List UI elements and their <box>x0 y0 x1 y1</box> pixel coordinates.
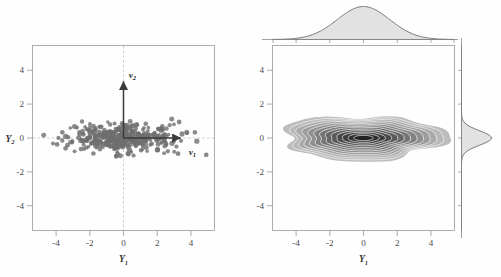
right-ytick-label-3: -2 <box>257 167 265 177</box>
left-y-ticks <box>27 70 33 205</box>
left-xtick-label-2: 0 <box>121 238 126 248</box>
right-panel-contour: 4 2 0 -2 -4 -4 -2 0 2 4 Y1 Y2 <box>240 0 501 277</box>
left-ytick-label-1: 2 <box>20 99 25 109</box>
eigenvector-v2-label: v2 <box>129 70 137 81</box>
left-xtick-label-0: -4 <box>52 238 60 248</box>
contour-bands <box>283 116 451 162</box>
right-marginal-ticks <box>458 70 462 205</box>
right-ytick-label-4: -4 <box>257 201 265 211</box>
left-ytick-label-4: -4 <box>17 201 25 211</box>
eigenvector-v1-label: v1 <box>189 147 196 158</box>
left-ytick-label-0: 4 <box>20 65 25 75</box>
left-xtick-label-1: -2 <box>86 238 94 248</box>
left-ytick-label-3: -2 <box>17 167 25 177</box>
right-xtick-label-3: 2 <box>395 238 400 248</box>
right-x-ticks <box>296 231 431 237</box>
left-yaxis-title: Y2 <box>5 134 15 146</box>
left-panel-svg: 4 2 0 -2 -4 -4 -2 0 2 4 <box>0 0 240 277</box>
left-panel-scatter: 4 2 0 -2 -4 -4 -2 0 2 4 <box>0 0 240 277</box>
right-marginal-density <box>458 38 492 238</box>
left-xtick-label-4: 4 <box>189 238 194 248</box>
left-xtick-label-3: 2 <box>155 238 160 248</box>
right-panel-svg: 4 2 0 -2 -4 -4 -2 0 2 4 Y1 Y2 <box>240 0 501 277</box>
left-xaxis-title: Y1 <box>119 254 128 266</box>
right-xtick-label-1: -2 <box>326 238 334 248</box>
right-xtick-label-4: 4 <box>429 238 434 248</box>
right-ytick-label-1: 2 <box>260 99 265 109</box>
right-xtick-label-2: 0 <box>361 238 366 248</box>
top-marginal-ticks <box>273 40 454 44</box>
right-y-ticks <box>267 70 273 205</box>
right-xaxis-title: Y1 <box>359 254 368 266</box>
right-ytick-label-2: 0 <box>260 133 265 143</box>
top-marginal-density <box>262 7 458 44</box>
right-xtick-label-0: -4 <box>292 238 300 248</box>
figure-root: 4 2 0 -2 -4 -4 -2 0 2 4 <box>0 0 501 277</box>
right-ytick-label-0: 4 <box>260 65 265 75</box>
left-ytick-label-2: 0 <box>20 133 25 143</box>
left-x-ticks <box>56 231 191 237</box>
